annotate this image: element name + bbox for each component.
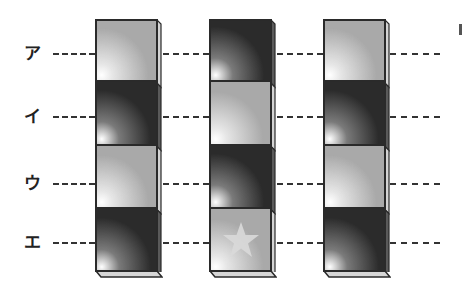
dashed-line-row-3-seg-3 [390,242,440,244]
cropped-corner-mark [459,24,462,35]
cell-ウ-light [325,146,384,209]
dashed-line-row-0-seg-0 [53,53,95,55]
dashed-line-row-0-seg-3 [390,53,440,55]
dashed-line-row-1-seg-0 [53,116,95,118]
dashed-line-row-2-seg-1 [163,183,209,185]
cell-ア-light [325,19,384,82]
column-front-face [323,19,386,272]
column-front-face [95,19,158,272]
dashed-line-row-0-seg-1 [163,53,209,55]
column-front-face [209,19,272,272]
cell-イ-light [211,82,270,145]
row-label-u: ウ [22,173,42,193]
dashed-line-row-1-seg-2 [277,116,323,118]
row-label-e: エ [22,232,42,252]
cell-エ-dark [97,209,156,272]
row-label-a: ア [22,43,42,63]
dashed-line-row-3-seg-0 [53,242,95,244]
dashed-line-row-1-seg-1 [163,116,209,118]
dashed-line-row-2-seg-3 [390,183,440,185]
dashed-line-row-1-seg-3 [390,116,440,118]
dashed-line-row-2-seg-2 [277,183,323,185]
cell-イ-dark [97,82,156,145]
star-icon [221,220,261,260]
cell-エ-dark [325,209,384,272]
dashed-line-row-3-seg-1 [163,242,209,244]
dashed-line-row-2-seg-0 [53,183,95,185]
column-3 [323,19,391,278]
cell-エ-light [211,209,270,272]
cell-ア-dark [211,19,270,82]
dashed-line-row-0-seg-2 [277,53,323,55]
cell-ア-light [97,19,156,82]
cell-ウ-dark [211,146,270,209]
cell-イ-dark [325,82,384,145]
row-label-i: イ [22,106,42,126]
column-1 [95,19,163,278]
cell-ウ-light [97,146,156,209]
column-2 [209,19,277,278]
dashed-line-row-3-seg-2 [277,242,323,244]
